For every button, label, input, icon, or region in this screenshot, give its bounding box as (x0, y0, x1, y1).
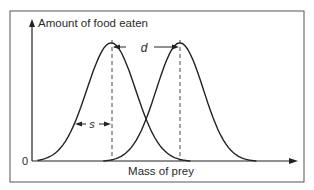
s-label: s (89, 118, 95, 130)
curve-species-1 (37, 43, 190, 161)
y-axis-label: Amount of food eaten (38, 17, 148, 29)
figure-frame (10, 11, 304, 182)
origin-label: 0 (22, 155, 28, 167)
curve-species-2 (103, 43, 256, 161)
niche-overlap-diagram: d s Amount of food eaten 0 Mass of prey (0, 0, 314, 190)
s-arrow-left-icon (75, 122, 82, 127)
x-axis-arrow-icon (289, 158, 298, 164)
x-axis-label: Mass of prey (128, 165, 194, 177)
s-arrow-right-icon (104, 122, 111, 127)
d-label: d (141, 41, 148, 55)
y-axis-arrow-icon (29, 19, 35, 27)
